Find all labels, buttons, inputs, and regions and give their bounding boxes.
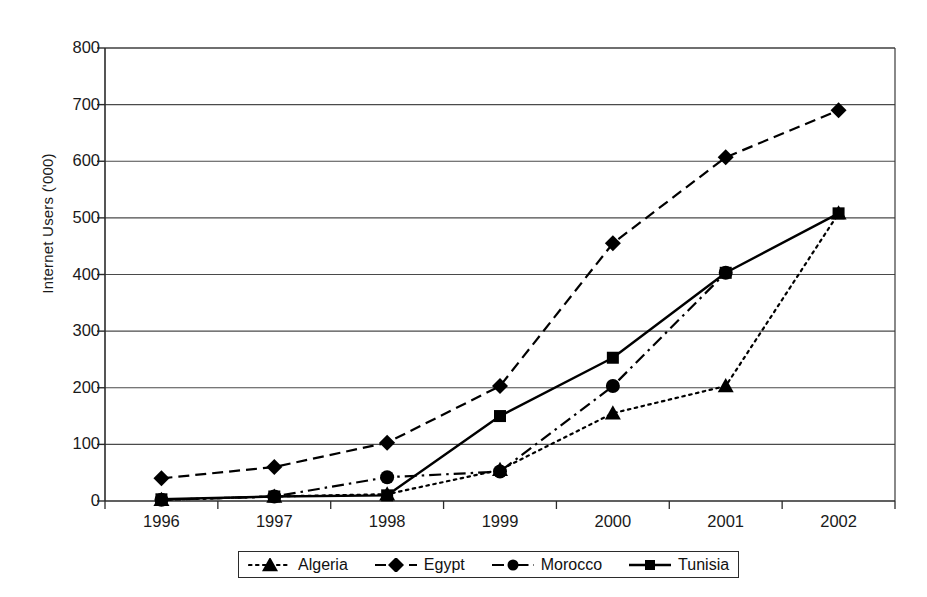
y-axis-title: Internet Users ('000) [39,104,56,344]
x-tick-label: 1998 [342,512,432,531]
legend-item-morocco[interactable]: Morocco [491,556,602,574]
legend-label: Tunisia [678,556,729,574]
legend-label: Egypt [424,556,465,574]
data-point-marker [718,378,734,392]
legend-label: Algeria [298,556,348,574]
data-point-marker [607,352,619,364]
x-tick-label: 1999 [455,512,545,531]
data-point-marker [266,459,282,475]
y-tick-label: 200 [54,379,100,396]
legend-swatch-square-icon [628,558,672,572]
data-point-marker [268,490,280,502]
y-tick-label: 500 [54,209,100,226]
y-tick-label: 600 [54,152,100,169]
data-point-marker [720,267,732,279]
data-point-marker [381,489,393,501]
chart-legend: AlgeriaEgyptMoroccoTunisia [238,551,739,578]
series-algeria [153,205,846,506]
legend-swatch-circle-icon [491,558,535,572]
series-morocco [154,266,732,507]
x-tick-label: 2001 [681,512,771,531]
legend-swatch-triangle-icon [248,558,292,572]
y-tick-label: 700 [54,96,100,113]
series-egypt [153,102,846,486]
y-tick-label: 0 [54,492,100,509]
data-point-marker [379,435,395,451]
axis-ticks [97,48,895,509]
internet-users-line-chart: Internet Users ('000) 010020030040050060… [0,0,927,597]
data-point-marker [606,379,620,393]
data-point-marker [494,410,506,422]
y-tick-label: 100 [54,435,100,452]
legend-item-algeria[interactable]: Algeria [248,556,348,574]
x-tick-label: 2002 [794,512,884,531]
data-point-marker [605,405,621,419]
data-point-marker [153,470,169,486]
legend-swatch-diamond-icon [374,558,418,572]
y-tick-label: 300 [54,322,100,339]
legend-item-egypt[interactable]: Egypt [374,556,465,574]
data-point-marker [833,207,845,219]
plot-area [0,0,927,597]
x-tick-label: 1996 [116,512,206,531]
x-tick-label: 1997 [229,512,319,531]
data-series-layer [153,102,846,507]
series-tunisia [155,207,844,505]
legend-item-tunisia[interactable]: Tunisia [628,556,729,574]
y-tick-label: 400 [54,266,100,283]
data-point-marker [380,470,394,484]
x-tick-label: 2000 [568,512,658,531]
y-tick-label: 800 [54,39,100,56]
legend-label: Morocco [541,556,602,574]
data-point-marker [493,465,507,479]
data-point-marker [155,493,167,505]
